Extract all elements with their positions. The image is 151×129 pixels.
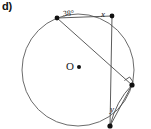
circle-diagram-svg (0, 0, 151, 129)
center-dot-O (77, 65, 81, 69)
vertex-dot-D (107, 123, 112, 128)
angle-label-y: y (110, 105, 114, 114)
center-label-O: O (66, 61, 74, 72)
angle-label-x: x (101, 10, 105, 19)
vertex-dot-A (55, 16, 60, 21)
right-angle-marker (124, 77, 133, 82)
vertex-dot-B (110, 14, 115, 19)
vertex-dot-C (129, 82, 134, 87)
chord-diagonal-AC (57, 18, 132, 85)
circle-outline-group (22, 14, 134, 126)
circle-outline (22, 14, 134, 126)
angle-label-38-degrees: 38° (63, 10, 75, 19)
geometry-figure: d) O 38° x y (0, 0, 151, 129)
